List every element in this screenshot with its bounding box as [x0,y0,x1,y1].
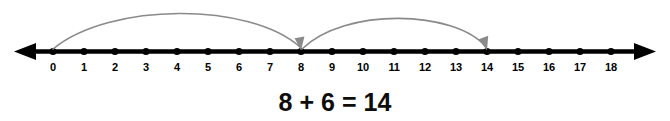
tick-label-7: 7 [267,62,273,73]
tick-label-18: 18 [605,62,617,73]
equation-addend-1: 8 [279,88,293,116]
tick-label-4: 4 [174,62,180,73]
tick-label-2: 2 [112,62,118,73]
tick-label-12: 12 [419,62,431,73]
equation-addend-2: 6 [321,88,335,116]
tick-label-0: 0 [50,62,56,73]
right-arrowhead-icon [634,43,656,60]
number-line-figure: 0 1 2 3 4 5 6 7 8 9 10 11 12 13 14 15 16… [0,0,670,121]
tick-label-14: 14 [481,62,493,73]
jump-arc-second [302,18,486,49]
tick-label-1: 1 [81,62,87,73]
jump-arc-first [53,13,300,49]
equation-operator-equals: = [335,88,364,116]
tick-label-13: 13 [450,62,462,73]
equation-operator-plus: + [292,88,321,116]
equation-text: 8+6=14 [279,90,392,115]
tick-dot [173,48,180,55]
tick-label-8: 8 [298,62,304,73]
tick-dot [142,48,149,55]
tick-label-11: 11 [388,62,399,73]
tick-dot [266,48,273,55]
tick-dot [607,48,614,55]
tick-dot [390,48,397,55]
tick-label-16: 16 [543,62,555,73]
tick-dot [204,48,211,55]
tick-label-3: 3 [143,62,149,73]
tick-label-15: 15 [512,62,524,73]
tick-dot [576,48,583,55]
tick-dot [359,48,366,55]
tick-label-6: 6 [236,62,242,73]
tick-label-9: 9 [329,62,335,73]
tick-dot [421,48,428,55]
tick-label-10: 10 [357,62,369,73]
tick-dot [111,48,118,55]
jump-arc-second-arrowhead-icon [479,36,488,51]
tick-dot [235,48,242,55]
tick-dot [452,48,459,55]
tick-label-5: 5 [205,62,211,73]
tick-dot [514,48,521,55]
equation-sum: 14 [364,88,392,116]
tick-dot [328,48,335,55]
equation: 8+6=14 [0,84,670,121]
tick-dot [80,48,87,55]
tick-label-17: 17 [574,62,586,73]
left-arrowhead-icon [14,43,36,60]
tick-dot [545,48,552,55]
